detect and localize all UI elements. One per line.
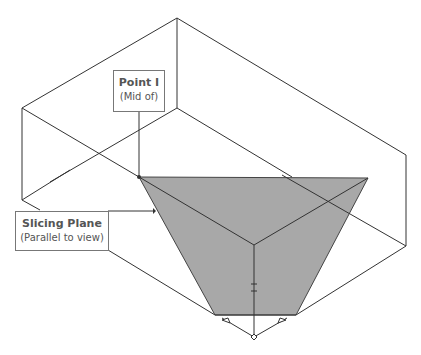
callout-subtitle: (Mid of) — [114, 90, 164, 103]
point-i-callout: Point I (Mid of) — [113, 70, 165, 112]
callout-title: Slicing Plane — [16, 217, 108, 231]
box-diagram — [0, 0, 421, 355]
callout-subtitle: (Parallel to view) — [16, 231, 108, 244]
slicing-plane-callout: Slicing Plane (Parallel to view) — [15, 211, 109, 251]
callout-title: Point I — [114, 76, 164, 90]
point-i-marker — [137, 175, 141, 179]
